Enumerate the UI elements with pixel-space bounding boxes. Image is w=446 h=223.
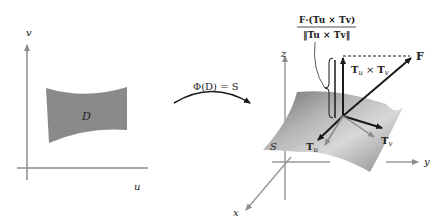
surface-S-label: S (270, 141, 277, 152)
mapping-label: Φ(D) = S (193, 81, 239, 92)
svg-text:F·(Tu × Tv): F·(Tu × Tv) (299, 15, 355, 25)
mapping-arrow: Φ(D) = S (174, 81, 250, 103)
xyz-space: z S y x F Tu×Tv F·(Tu × Tv) ‖Tu (233, 15, 430, 218)
uv-plane: v u D (17, 27, 148, 192)
x-axis-label: x (233, 207, 239, 218)
svg-text:‖Tu × Tv‖: ‖Tu × Tv‖ (303, 30, 350, 41)
surface-integral-diagram: v u D Φ(D) = S z S y x F Tu×Tv (0, 0, 446, 223)
flux-formula: F·(Tu × Tv) ‖Tu × Tv‖ (297, 15, 356, 41)
normal-label: Tu×Tv (351, 64, 389, 77)
F-vector-label: F (416, 50, 424, 63)
v-axis-label: v (26, 27, 32, 38)
region-D-label: D (81, 110, 91, 123)
z-axis-label: z (280, 48, 287, 59)
leader-line (314, 42, 325, 88)
y-axis-label: y (423, 156, 430, 167)
u-axis-label: u (134, 181, 140, 192)
